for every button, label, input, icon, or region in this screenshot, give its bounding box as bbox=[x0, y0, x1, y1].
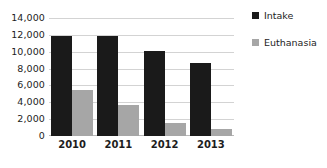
legend-entry-intake[interactable]: Intake bbox=[252, 10, 293, 21]
bar-intake-2010 bbox=[51, 36, 72, 136]
x-axis-tick-label-2011: 2011 bbox=[95, 139, 141, 151]
legend-swatch-intake bbox=[252, 12, 259, 19]
bar-group-2012 bbox=[144, 18, 186, 136]
bar-euthanasia-2013 bbox=[211, 129, 232, 136]
bar-euthanasia-2010 bbox=[72, 90, 93, 136]
bar-euthanasia-2012 bbox=[165, 123, 186, 136]
bar-euthanasia-2011 bbox=[118, 105, 139, 136]
y-axis-tick-label: 4,000 bbox=[0, 97, 45, 107]
bar-group-2010 bbox=[51, 18, 93, 136]
bar-chart: 14,00012,00010,0008,0006,0004,0002,0000 … bbox=[0, 0, 327, 168]
plot-area bbox=[49, 18, 234, 136]
bar-intake-2013 bbox=[190, 63, 211, 136]
y-axis-tick-label: 0 bbox=[0, 131, 45, 141]
legend-swatch-euthanasia bbox=[252, 39, 259, 46]
y-axis-tick-label: 10,000 bbox=[0, 47, 45, 57]
x-axis-tick-label-2010: 2010 bbox=[49, 139, 95, 151]
bar-group-2013 bbox=[190, 18, 232, 136]
bar-group-2011 bbox=[97, 18, 139, 136]
y-axis-tick-label: 14,000 bbox=[0, 13, 45, 23]
y-axis: 14,00012,00010,0008,0006,0004,0002,0000 bbox=[0, 0, 48, 168]
legend-label: Euthanasia bbox=[264, 37, 317, 48]
x-axis-tick-label-2012: 2012 bbox=[142, 139, 188, 151]
bar-intake-2011 bbox=[97, 36, 118, 136]
y-axis-tick-label: 6,000 bbox=[0, 80, 45, 90]
y-axis-tick-label: 12,000 bbox=[0, 30, 45, 40]
legend-entry-euthanasia[interactable]: Euthanasia bbox=[252, 37, 317, 48]
legend-label: Intake bbox=[264, 10, 293, 21]
x-axis-tick-label-2013: 2013 bbox=[188, 139, 234, 151]
x-axis: 2010201120122013 bbox=[49, 139, 234, 159]
y-axis-tick-label: 2,000 bbox=[0, 114, 45, 124]
bar-intake-2012 bbox=[144, 51, 165, 136]
y-axis-tick-label: 8,000 bbox=[0, 64, 45, 74]
